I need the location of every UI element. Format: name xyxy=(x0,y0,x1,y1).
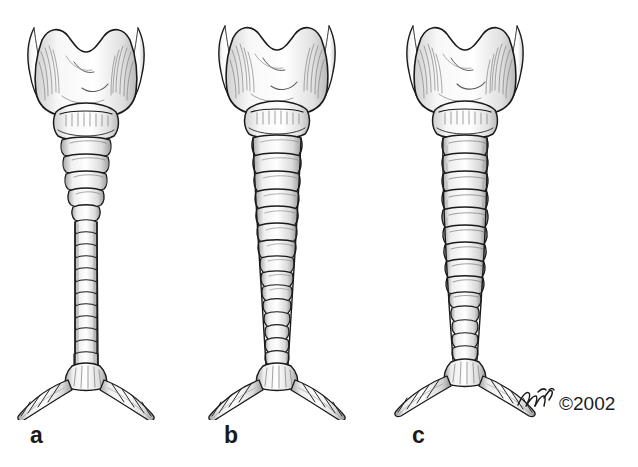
tracheal-rings-c xyxy=(442,135,488,362)
tracheal-rings-stenotic-a xyxy=(74,220,98,368)
panel-label-b: b xyxy=(224,424,238,447)
artist-credit: ©2002 xyxy=(516,386,615,413)
copyright-notice: ©2002 xyxy=(559,394,615,413)
cricoid-cartilage-a xyxy=(54,103,119,141)
tracheal-rings-b xyxy=(252,135,302,367)
carina-bifurcation-a xyxy=(18,363,154,420)
larynx-trachea-drawing-c xyxy=(365,0,575,420)
cricoid-cartilage-c xyxy=(433,101,498,139)
artist-signature-icon xyxy=(516,386,558,412)
tracheal-rings-upper-a xyxy=(61,137,111,222)
specimen-b xyxy=(177,0,387,420)
specimen-a xyxy=(0,0,196,420)
cricoid-cartilage-b xyxy=(245,101,310,139)
anatomical-figure: a b c ©2002 xyxy=(0,0,638,467)
carina-bifurcation-c xyxy=(395,359,535,417)
larynx-trachea-drawing-b xyxy=(177,0,387,420)
carina-bifurcation-b xyxy=(209,363,345,420)
specimen-c xyxy=(365,0,575,420)
panel-label-a: a xyxy=(30,424,43,447)
larynx-trachea-drawing-a xyxy=(0,0,196,420)
panel-label-c: c xyxy=(412,424,425,447)
